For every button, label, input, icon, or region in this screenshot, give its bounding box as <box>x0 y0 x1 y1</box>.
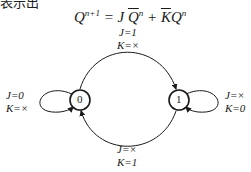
label-self-1-j: J=× <box>225 89 245 102</box>
label-1-to-0-j: J=× <box>117 143 137 156</box>
transition-arc-0-to-1 <box>80 52 176 89</box>
self-loop-1 <box>186 91 218 113</box>
label-1-to-0-k: K=1 <box>117 156 137 169</box>
state-0-label: 0 <box>77 93 83 105</box>
state-diagram: 表示出 Qn+1 = J Qn + KQn 0 1 J=1 K=× J=× K=… <box>0 0 251 172</box>
self-loop-0 <box>40 91 73 113</box>
label-0-to-1-k: K=× <box>117 39 139 52</box>
label-self-1-k: K=0 <box>225 102 245 115</box>
label-0-to-1-j: J=1 <box>119 26 137 39</box>
transition-arc-1-to-0 <box>81 111 176 146</box>
label-self-0-k: K=× <box>6 102 28 115</box>
label-self-0-j: J=0 <box>6 89 24 102</box>
state-1-label: 1 <box>176 93 182 105</box>
